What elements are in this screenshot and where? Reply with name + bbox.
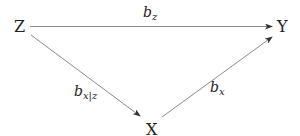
node-z: Z [14, 19, 25, 35]
edge-x-to-y [162, 37, 272, 117]
edge-label-b-z: bz [143, 5, 157, 22]
edge-label-b-x-given-z: bx|z [74, 84, 97, 101]
edge-label-subscript: z [152, 11, 157, 22]
edge-label-subscript: x [219, 86, 225, 97]
edge-label-base: b [143, 4, 152, 20]
edge-label-subscript: x|z [83, 90, 97, 101]
node-x: X [146, 122, 157, 136]
edge-label-base: b [210, 79, 219, 95]
node-y: Y [277, 19, 288, 35]
edge-label-b-x: bx [210, 80, 225, 97]
edge-z-to-x [31, 35, 140, 116]
edge-label-base: b [74, 83, 83, 99]
